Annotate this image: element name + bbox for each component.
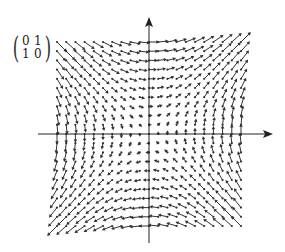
field-arrow [181, 166, 187, 172]
arrow-shaft [50, 208, 57, 216]
field-arrow [203, 63, 212, 70]
field-arrow [167, 213, 178, 218]
field-arrow [111, 78, 119, 84]
arrow-shaft [241, 89, 244, 97]
arrow-shaft [195, 47, 203, 51]
field-arrow [146, 141, 150, 145]
field-arrow [130, 59, 140, 63]
field-arrow [73, 142, 77, 152]
field-arrow [196, 201, 205, 208]
field-arrow [222, 61, 230, 70]
vector-field-plot [0, 0, 285, 252]
field-arrow [149, 214, 160, 218]
field-arrow [70, 179, 76, 189]
field-arrow [198, 183, 206, 191]
field-arrow [47, 225, 58, 236]
field-arrow [203, 54, 212, 61]
field-arrow [230, 124, 234, 135]
field-arrow [176, 66, 185, 71]
field-arrow [168, 204, 178, 209]
field-arrow [139, 105, 145, 108]
field-arrow [222, 70, 229, 79]
field-arrow [120, 87, 127, 92]
arrow-shaft [186, 39, 194, 42]
field-arrow [94, 216, 104, 222]
arrow-shaft [56, 143, 57, 151]
field-arrow [157, 76, 165, 80]
field-arrow [179, 185, 187, 191]
field-arrow [104, 207, 114, 213]
arrow-shaft [177, 49, 185, 52]
field-arrow [185, 92, 191, 98]
field-arrow [101, 142, 105, 149]
field-arrow [183, 138, 186, 144]
arrow-head [193, 128, 197, 131]
arrow-shaft [241, 61, 247, 69]
field-arrow [175, 120, 178, 126]
arrow-shaft [168, 223, 176, 226]
arrow-shaft [122, 226, 130, 228]
field-arrow [102, 69, 111, 76]
field-arrow [115, 188, 123, 193]
field-arrow [162, 168, 168, 172]
field-arrow [58, 207, 67, 217]
field-arrow [74, 87, 80, 97]
field-arrow [166, 112, 170, 116]
arrow-shaft [195, 38, 203, 42]
arrow-shaft [158, 41, 166, 42]
field-arrow [176, 75, 184, 80]
arrow-head [143, 87, 146, 91]
arrow-shaft [103, 60, 110, 64]
arrow-shaft [241, 43, 249, 51]
field-arrow [130, 216, 141, 220]
arrow-shaft [223, 218, 231, 226]
field-arrow [160, 186, 168, 190]
field-arrow [163, 159, 168, 163]
field-arrow [79, 179, 86, 188]
field-arrow [174, 139, 177, 145]
field-arrow [65, 124, 69, 135]
arrow-head [194, 119, 198, 122]
field-arrow [203, 90, 209, 98]
field-arrow [136, 151, 141, 154]
field-arrow [102, 87, 109, 94]
field-arrow [120, 124, 123, 130]
arrow-head [120, 135, 124, 138]
field-arrow [93, 96, 99, 104]
field-arrow [93, 69, 102, 76]
field-arrow [176, 84, 183, 89]
field-arrow [176, 102, 181, 107]
field-arrow [99, 161, 104, 168]
arrow-head [175, 129, 179, 132]
field-arrow [154, 159, 160, 162]
field-arrow [120, 96, 126, 101]
field-arrow [135, 160, 141, 163]
field-arrow [157, 114, 162, 117]
arrow-shaft [96, 208, 103, 212]
arrow-shaft [57, 42, 65, 50]
arrow-shaft [85, 51, 93, 57]
field-arrow [231, 60, 239, 70]
field-arrow [222, 43, 232, 52]
field-arrow [111, 59, 121, 65]
arrow-shaft [218, 182, 223, 189]
field-arrow [74, 59, 83, 68]
arrow-shaft [75, 60, 82, 67]
field-arrow [231, 88, 237, 99]
arrow-head [82, 157, 85, 161]
field-arrow [139, 50, 150, 54]
arrow-shaft [57, 88, 61, 96]
field-arrow [80, 170, 85, 179]
field-arrow [65, 115, 69, 126]
field-arrow [139, 68, 148, 72]
field-arrow [84, 69, 92, 77]
arrow-head [84, 120, 87, 124]
field-arrow [194, 100, 199, 107]
field-arrow [212, 62, 220, 70]
arrow-head [133, 188, 136, 192]
field-arrow [153, 168, 159, 171]
field-arrow [231, 51, 240, 61]
arrow-shaft [213, 36, 221, 42]
arrow-shaft [240, 135, 241, 143]
field-arrow [212, 53, 221, 61]
